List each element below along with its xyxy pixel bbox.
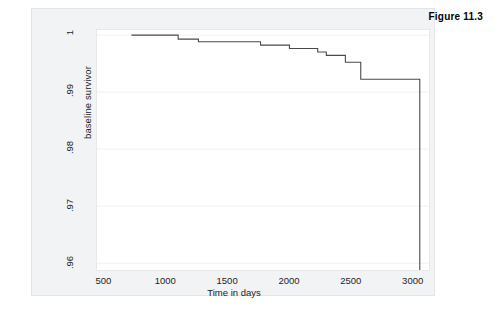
x-tick-label-0: 500 (81, 275, 125, 286)
x-tick-label-3: 2000 (267, 275, 311, 286)
y-axis-title: baseline survivor (82, 43, 93, 163)
y-tick-label-2: .98 (64, 131, 75, 165)
y-tick-label-3: .97 (64, 188, 75, 222)
step-curve-svg (97, 30, 429, 270)
x-axis-title: Time in days (32, 287, 436, 298)
baseline-survivor-step-line (131, 35, 419, 270)
x-tick-label-1: 1000 (143, 275, 187, 286)
figure-caption: Figure 11.3 (429, 11, 483, 22)
plot-region (96, 29, 430, 271)
x-tick-label-2: 1500 (205, 275, 249, 286)
y-tick-label-0: 1 (64, 16, 75, 50)
y-tick-label-1: .99 (64, 73, 75, 107)
figure-container: baseline survivor 1.99.98.97.96 50010001… (0, 0, 494, 322)
y-tick-label-4: .96 (64, 246, 75, 280)
gridlines (97, 35, 429, 263)
x-tick-label-4: 2500 (329, 275, 373, 286)
x-tick-label-5: 3000 (391, 275, 435, 286)
graph-canvas: baseline survivor 1.99.98.97.96 50010001… (31, 8, 435, 296)
